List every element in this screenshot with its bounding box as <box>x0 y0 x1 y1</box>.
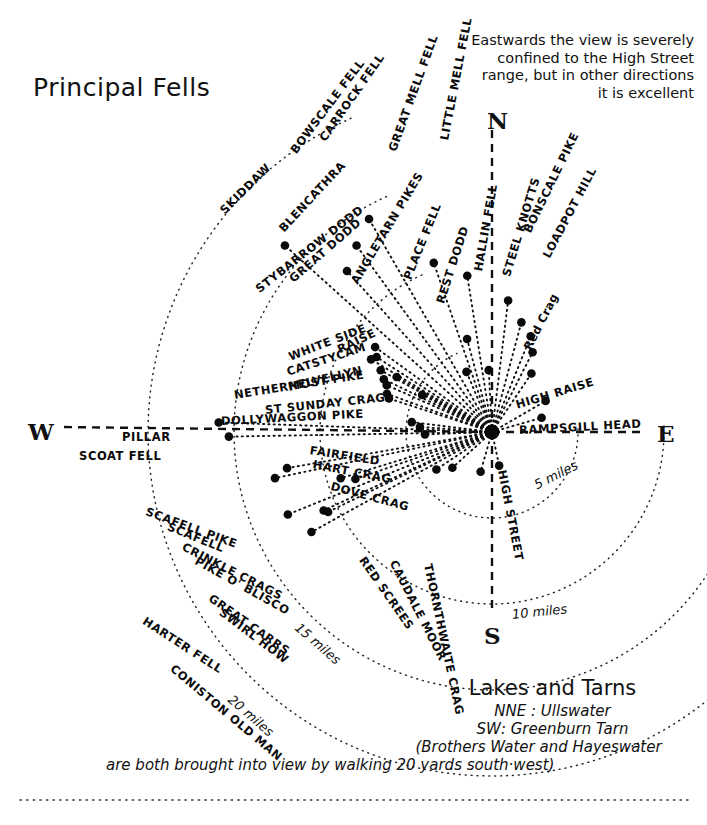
summit-dot <box>476 467 485 476</box>
summit-dot <box>365 215 374 224</box>
summit-dot <box>432 465 441 474</box>
summit-dot <box>307 528 316 537</box>
sightline <box>492 322 521 432</box>
viewpoint-hub <box>485 425 500 440</box>
cardinal-e: E <box>657 420 675 447</box>
lakes-line-paren-close: are both brought into view by walking 20… <box>106 756 706 774</box>
lakes-heading: Lakes and Tarns <box>398 676 707 700</box>
summit-dot <box>421 430 430 439</box>
lakes-line-sw: SW: Greenburn Tarn <box>398 720 707 738</box>
sightline <box>375 347 492 432</box>
summit-dot <box>495 461 504 470</box>
summit-dot <box>527 369 536 378</box>
summit-dot <box>371 343 380 352</box>
summit-dot <box>284 510 293 519</box>
summit-dot <box>281 241 290 250</box>
summit-dot <box>367 355 376 364</box>
fell-label-pillar: PILLAR <box>122 430 171 444</box>
summit-dot <box>418 391 427 400</box>
diagram-canvas: Principal Fells Eastwards the view is se… <box>0 0 707 825</box>
summit-dot <box>392 373 401 382</box>
sightline <box>492 352 533 432</box>
cardinal-s: S <box>484 622 501 649</box>
summit-dot <box>352 241 361 250</box>
summit-dot <box>271 474 280 483</box>
lakes-line-nne: NNE : Ullswater <box>398 702 707 720</box>
summit-dot <box>225 432 234 441</box>
note-line-4: it is excellent <box>376 85 694 103</box>
summit-dot <box>517 318 526 327</box>
sightline <box>229 432 492 437</box>
summit-dot <box>462 368 471 377</box>
cardinal-w: W <box>28 418 54 445</box>
fell-label-scoat-fell: SCOAT FELL <box>79 449 161 463</box>
summit-dot <box>382 381 391 390</box>
page-title: Principal Fells <box>33 73 210 102</box>
summit-dot <box>504 296 513 305</box>
summit-dot <box>324 508 333 517</box>
summit-dot <box>283 464 292 473</box>
cardinal-n: N <box>487 107 508 134</box>
summit-dot <box>429 259 438 268</box>
summit-dot <box>484 366 493 375</box>
summit-dot <box>463 335 472 344</box>
lakes-and-tarns-block: Lakes and Tarns NNE : Ullswater SW: Gree… <box>398 676 707 774</box>
summit-dot <box>416 423 425 432</box>
summit-dot <box>376 366 385 375</box>
lakes-line-paren-open: (Brothers Water and Hayeswater <box>370 738 707 756</box>
summit-dot <box>463 271 472 280</box>
summit-dot <box>407 418 416 427</box>
summit-dot <box>448 463 457 472</box>
